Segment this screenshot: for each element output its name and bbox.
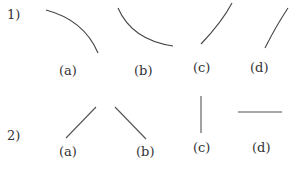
row2-c-label: (c) — [193, 141, 210, 155]
row1-b-curve — [118, 8, 173, 46]
row1-c-label: (c) — [193, 61, 210, 75]
row1-number: 1) — [7, 8, 20, 22]
row2-d-label: (d) — [252, 141, 270, 155]
row2-number: 2) — [7, 129, 20, 143]
row2-b-line — [115, 107, 146, 139]
row1-a-curve — [46, 10, 98, 53]
row2-a-label: (a) — [59, 145, 77, 159]
row1-c-curve — [201, 3, 232, 44]
row1-d-label: (d) — [250, 61, 268, 75]
row2-b-label: (b) — [136, 145, 154, 159]
row1-d-curve — [265, 8, 288, 48]
row1-a-label: (a) — [59, 64, 77, 78]
row1-b-label: (b) — [134, 64, 152, 78]
row2-a-line — [66, 107, 96, 138]
diagram-canvas: 1) (a) (b) (c) (d) 2) (a) (b) (c) (d) — [0, 0, 294, 172]
